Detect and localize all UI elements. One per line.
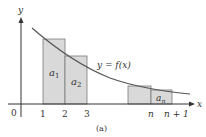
tick-n-plus-1: n + 1 (164, 109, 189, 119)
tick-1: 1 (40, 109, 46, 119)
integral-test-diagram: y x 0 1 2 3 n n + 1 a1 a2 an y = f(x) (a… (0, 0, 206, 137)
rect-an-minus-1 (128, 86, 151, 104)
x-axis-arrow-icon (189, 102, 195, 107)
y-axis-arrow-icon (19, 17, 24, 23)
y-axis-label: y (17, 5, 24, 15)
figure-caption: (a) (96, 124, 107, 133)
tick-2: 2 (62, 109, 68, 119)
curve-label: y = f(x) (96, 60, 131, 70)
tick-3: 3 (84, 109, 90, 119)
origin-label: 0 (11, 108, 17, 118)
tick-n: n (148, 109, 154, 119)
x-axis-label: x (197, 99, 202, 109)
